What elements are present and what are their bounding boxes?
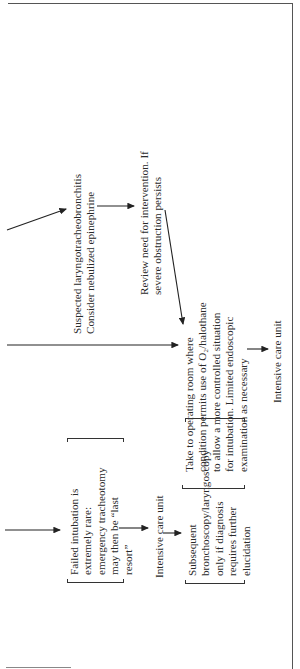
node-subsequent-bronchoscopy: Subsequent bronchoscopy/laryngoscopy onl… [186,450,253,576]
node-line: may then be “last [108,467,121,575]
node-line: only if diagnosis [213,450,226,576]
node-line: condition permits use of O₂/halothane [196,302,209,472]
node-line: Subsequent [186,450,199,576]
node-line: for intubation. Limited endoscopic [223,302,236,472]
flow-arrows [0,0,300,669]
node-line: Intensive care unit [271,320,284,403]
node-failed-intubation: Failed intubation is extremely rare: eme… [68,467,135,575]
node-icu-right: Intensive care unit [271,320,284,403]
node-line: resort” [122,467,135,575]
node-line: Failed intubation is [68,467,81,575]
bracket-subsequent-top [185,418,245,422]
bracket-subsequent-bottom [185,580,245,584]
node-line: Review need for intervention. If [138,151,151,295]
bracket-or-bottom [182,485,245,489]
node-line: requires further [226,450,239,576]
node-line: bronchoscopy/laryngoscopy [199,450,212,576]
node-line: Take to operating room where [183,302,196,472]
node-line: to allow a more controlled situation [210,302,223,472]
bracket-failed-bottom [67,579,124,583]
node-icu-left: Intensive care unit [153,495,166,578]
node-line: extremely rare: [81,467,94,575]
bracket-failed-top [67,438,124,442]
node-line: Intensive care unit [153,495,166,578]
arrow-to-laryngo [7,209,66,230]
node-line: emergency tracheotomy [95,467,108,575]
node-line: examination as necessary [237,302,250,472]
node-operating-room: Take to operating room where condition p… [183,302,250,472]
node-line: Consider nebulized epinephrine [84,174,97,334]
node-line: Suspected laryngotracheobronchitis [71,174,84,334]
node-laryngotracheobronchitis: Suspected laryngotracheobronchitis Consi… [71,174,98,334]
arrow-review-to-or [165,210,183,324]
node-line: elucidation [240,450,253,576]
node-review-intervention: Review need for intervention. If severe … [138,151,165,295]
node-line: severe obstruction persists [151,151,164,295]
